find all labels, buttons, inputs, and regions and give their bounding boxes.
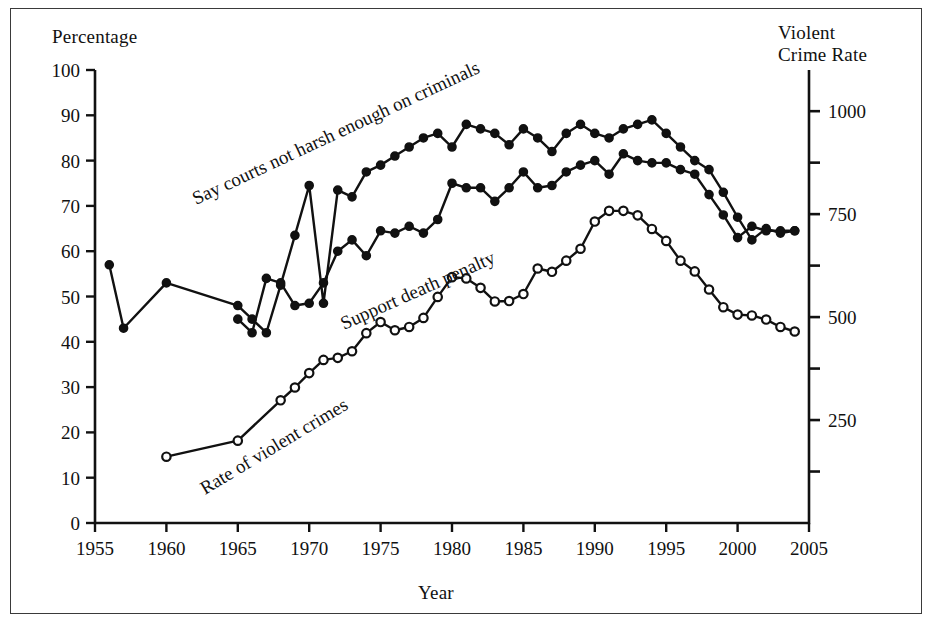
data-point	[662, 159, 670, 167]
y-tick-label: 100	[52, 60, 81, 81]
data-point	[619, 207, 627, 215]
data-point	[662, 237, 670, 245]
data-point	[120, 324, 128, 332]
data-point	[591, 217, 599, 225]
data-point	[705, 166, 713, 174]
data-point	[505, 184, 513, 192]
data-point	[162, 452, 170, 460]
y-tick-label: 80	[61, 151, 80, 172]
data-point	[262, 329, 270, 337]
y2-tick-label: 750	[828, 204, 857, 225]
data-point	[648, 225, 656, 233]
data-point	[734, 213, 742, 221]
chart-plot-area: 0102030405060708090100250500750100019551…	[0, 0, 932, 624]
data-point	[733, 310, 741, 318]
data-point	[348, 236, 356, 244]
data-point	[762, 315, 770, 323]
data-point	[391, 152, 399, 160]
data-point	[419, 229, 427, 237]
y-tick-label: 90	[61, 105, 80, 126]
data-point	[319, 299, 327, 307]
data-point	[419, 134, 427, 142]
y2-tick-label: 1000	[828, 101, 866, 122]
data-point	[776, 227, 784, 235]
data-point	[477, 125, 485, 133]
data-point	[605, 207, 613, 215]
data-point	[505, 141, 513, 149]
data-point	[476, 284, 484, 292]
data-point	[348, 347, 356, 355]
data-point	[676, 166, 684, 174]
data-point	[262, 274, 270, 282]
data-point	[705, 285, 713, 293]
y-tick-label: 30	[61, 377, 80, 398]
data-point	[791, 227, 799, 235]
y-tick-label: 20	[61, 422, 80, 443]
data-point	[577, 120, 585, 128]
data-point	[291, 302, 299, 310]
data-point	[462, 120, 470, 128]
data-point	[533, 264, 541, 272]
y-tick-label: 10	[61, 468, 80, 489]
data-point	[634, 157, 642, 165]
data-point	[348, 193, 356, 201]
data-point	[576, 245, 584, 253]
data-point	[305, 369, 313, 377]
x-tick-label: 1970	[290, 538, 328, 559]
y-tick-label: 50	[61, 287, 80, 308]
data-point	[377, 161, 385, 169]
y-tick-label: 60	[61, 241, 80, 262]
data-point	[776, 323, 784, 331]
y-tick-label: 70	[61, 196, 80, 217]
x-tick-label: 1975	[362, 538, 400, 559]
data-point	[719, 303, 727, 311]
chart-figure: Percentage Violent Crime Rate Year 01020…	[0, 0, 932, 624]
data-point	[248, 329, 256, 337]
data-point	[334, 354, 342, 362]
data-point	[405, 143, 413, 151]
data-point	[705, 191, 713, 199]
data-point	[234, 436, 242, 444]
x-tick-label: 1955	[76, 538, 114, 559]
data-point	[405, 222, 413, 230]
data-point	[105, 261, 113, 269]
data-point	[362, 252, 370, 260]
data-point	[591, 157, 599, 165]
series-2	[162, 207, 799, 461]
series-0	[105, 116, 798, 337]
data-point	[648, 116, 656, 124]
data-point	[691, 157, 699, 165]
series-layer	[105, 116, 799, 461]
data-point	[362, 329, 370, 337]
data-point	[748, 236, 756, 244]
data-point	[391, 326, 399, 334]
data-point	[448, 179, 456, 187]
data-point	[448, 143, 456, 151]
data-point	[362, 168, 370, 176]
data-point	[491, 297, 499, 305]
data-point	[477, 184, 485, 192]
data-point	[676, 256, 684, 264]
data-point	[762, 227, 770, 235]
data-point	[719, 211, 727, 219]
data-point	[619, 125, 627, 133]
data-point	[462, 184, 470, 192]
data-point	[391, 229, 399, 237]
x-tick-label: 1995	[647, 538, 685, 559]
x-tick-label: 1960	[147, 538, 185, 559]
data-point	[605, 134, 613, 142]
data-point	[591, 129, 599, 137]
data-point	[305, 182, 313, 190]
data-point	[377, 227, 385, 235]
data-point	[562, 256, 570, 264]
data-point	[162, 279, 170, 287]
data-point	[633, 211, 641, 219]
data-point	[319, 279, 327, 287]
data-point	[276, 396, 284, 404]
data-point	[734, 234, 742, 242]
x-tick-label: 1990	[576, 538, 614, 559]
y2-tick-label: 250	[828, 410, 857, 431]
data-point	[548, 148, 556, 156]
data-point	[676, 143, 684, 151]
data-point	[505, 297, 513, 305]
